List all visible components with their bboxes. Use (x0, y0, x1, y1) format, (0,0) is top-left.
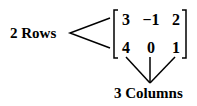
matrix-cell-r2c3: 1 (172, 40, 180, 56)
matrix-cell-r1c2: −1 (142, 12, 159, 28)
right-bracket (182, 10, 186, 58)
rows-pointer-lines (70, 18, 110, 48)
columns-label: 3 Columns (114, 86, 183, 101)
left-bracket (114, 10, 118, 58)
matrix-cell-r1c3: 2 (172, 12, 180, 28)
matrix-cell-r1c1: 3 (122, 12, 130, 28)
matrix-cell-r2c1: 4 (122, 40, 130, 56)
column-pointer-1 (126, 57, 150, 83)
matrix-cell-r2c2: 0 (147, 40, 155, 56)
column-pointer-3 (150, 57, 175, 83)
rows-label: 2 Rows (10, 26, 56, 41)
